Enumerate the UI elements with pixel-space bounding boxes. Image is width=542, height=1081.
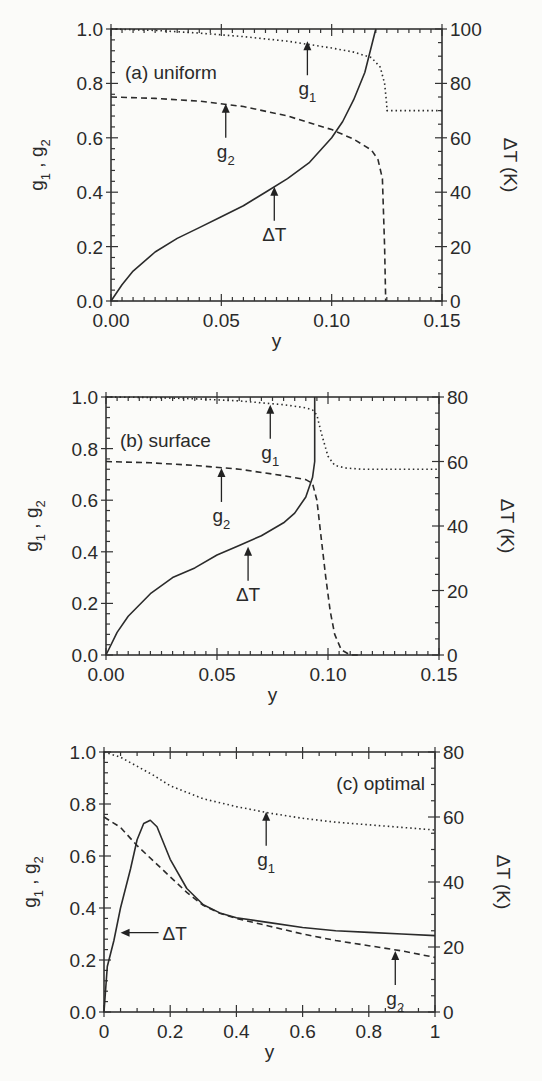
annotation-label-deltaT: ΔT <box>236 584 261 605</box>
panel-c-optimal: 00.20.40.60.81y0.00.20.40.60.81.00204060… <box>19 742 514 1062</box>
y-tick-label-right: 100 <box>450 19 482 40</box>
y-tick-label-right: 40 <box>443 872 464 893</box>
y-axis-label-right: ΔT (K) <box>500 138 521 193</box>
y-tick-label-right: 40 <box>450 182 471 203</box>
arrowhead-icon <box>222 104 230 113</box>
y-axis-label-right: ΔT (K) <box>497 499 518 554</box>
x-axis-label: y <box>272 330 282 351</box>
x-tick-label: 0.05 <box>199 664 236 685</box>
arrowhead-icon <box>262 812 270 821</box>
y-axis-label-right: ΔT (K) <box>493 855 514 910</box>
y-tick-label-left: 0.6 <box>72 490 98 511</box>
y-tick-label-right: 80 <box>443 742 464 763</box>
x-tick-label: 0.15 <box>424 310 461 331</box>
y-tick-label-right: 60 <box>447 452 468 473</box>
x-tick-label: 1 <box>430 1021 441 1042</box>
y-tick-label-right: 20 <box>450 237 471 258</box>
series-g2-dashed <box>111 97 386 301</box>
y-tick-label-left: 0.8 <box>72 439 98 460</box>
annotation-label-g2: g2 <box>213 505 231 532</box>
series-g2-dashed <box>106 462 361 656</box>
y-tick-label-left: 1.0 <box>70 742 96 763</box>
y-axis-label-left: g1 , g2 <box>26 139 53 190</box>
y-tick-label-left: 0.4 <box>72 542 99 563</box>
y-tick-label-left: 0.4 <box>77 182 104 203</box>
y-tick-label-left: 1.0 <box>72 387 98 408</box>
y-tick-label-right: 0 <box>443 1002 454 1023</box>
annotation-label-g1: g1 <box>261 442 279 469</box>
panel-a-uniform: 0.000.050.100.15y0.00.20.40.60.81.002040… <box>26 19 521 351</box>
y-tick-label-right: 60 <box>443 807 464 828</box>
arrowhead-icon <box>217 468 225 477</box>
y-tick-label-right: 20 <box>447 581 468 602</box>
series-g2-dashed <box>104 817 435 957</box>
x-tick-label: 0.00 <box>93 310 130 331</box>
x-tick-label: 0.6 <box>289 1021 315 1042</box>
annotation-label-g2: g2 <box>217 141 235 168</box>
y-tick-label-right: 0 <box>447 645 458 666</box>
x-axis-label: y <box>265 1041 275 1062</box>
x-tick-label: 0.2 <box>157 1021 183 1042</box>
arrowhead-icon <box>303 41 311 50</box>
annotation-label-g1: g1 <box>257 849 275 876</box>
series-deltaT-solid <box>104 820 435 1012</box>
y-tick-label-right: 40 <box>447 516 468 537</box>
y-tick-label-left: 0.4 <box>70 898 97 919</box>
y-tick-label-left: 1.0 <box>77 19 103 40</box>
x-tick-label: 0.00 <box>88 664 125 685</box>
x-tick-label: 0.10 <box>313 310 350 331</box>
y-tick-label-left: 0.0 <box>70 1002 96 1023</box>
y-tick-label-right: 80 <box>447 387 468 408</box>
x-tick-label: 0.05 <box>203 310 240 331</box>
figure-canvas: 0.000.050.100.15y0.00.20.40.60.81.002040… <box>0 0 542 1081</box>
panel-b-surface: 0.000.050.100.15y0.00.20.40.60.81.002040… <box>21 387 518 705</box>
arrowhead-icon <box>121 929 130 937</box>
y-tick-label-left: 0.8 <box>70 794 96 815</box>
arrowhead-icon <box>391 951 399 960</box>
y-axis-label-left: g1 , g2 <box>19 856 46 907</box>
y-tick-label-left: 0.0 <box>72 645 98 666</box>
x-tick-label: 0.8 <box>356 1021 382 1042</box>
x-axis-label: y <box>268 684 278 705</box>
y-axis-label-left: g1 , g2 <box>21 500 48 551</box>
panel-title: (a) uniform <box>125 62 217 83</box>
annotation-label-g2: g2 <box>386 988 404 1015</box>
y-tick-label-left: 0.2 <box>70 950 96 971</box>
y-tick-label-left: 0.2 <box>77 237 103 258</box>
y-tick-label-right: 80 <box>450 73 471 94</box>
x-tick-label: 0.10 <box>310 664 347 685</box>
y-tick-label-right: 0 <box>450 291 461 312</box>
arrowhead-icon <box>266 405 274 414</box>
annotation-label-deltaT: ΔT <box>163 923 188 944</box>
annotation-label-deltaT: ΔT <box>262 224 287 245</box>
y-tick-label-left: 0.0 <box>77 291 103 312</box>
x-tick-label: 0 <box>99 1021 110 1042</box>
panel-title: (c) optimal <box>336 773 425 794</box>
annotation-label-g1: g1 <box>298 78 316 105</box>
x-tick-label: 0.15 <box>421 664 458 685</box>
x-tick-label: 0.4 <box>223 1021 250 1042</box>
y-tick-label-left: 0.2 <box>72 593 98 614</box>
y-tick-label-right: 20 <box>443 937 464 958</box>
panel-title: (b) surface <box>120 430 211 451</box>
arrowhead-icon <box>244 547 252 556</box>
y-tick-label-right: 60 <box>450 128 471 149</box>
y-tick-label-left: 0.8 <box>77 73 103 94</box>
y-tick-label-left: 0.6 <box>77 128 103 149</box>
y-tick-label-left: 0.6 <box>70 846 96 867</box>
